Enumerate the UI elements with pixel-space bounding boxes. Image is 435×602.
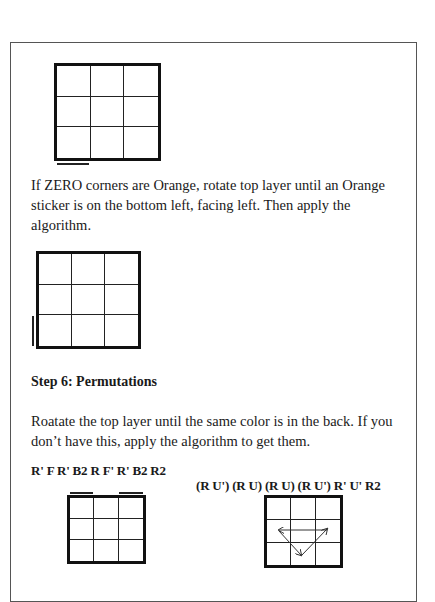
- cube-cell: [119, 519, 143, 540]
- cube-cell: [39, 285, 72, 316]
- cube-cell: [105, 315, 138, 346]
- cube-cell: [124, 97, 158, 128]
- cube-cell: [39, 315, 72, 346]
- sticker-marker-left: [32, 316, 34, 346]
- cube-cell: [105, 285, 138, 316]
- cube-cell: [119, 540, 143, 561]
- algorithm-1-label: R' F R' B2 R F' R' B2 R2: [31, 463, 166, 479]
- cube-cell: [72, 315, 105, 346]
- cube-cell: [57, 97, 91, 128]
- cube-cell: [94, 519, 118, 540]
- cube-cell: [124, 127, 158, 158]
- zero-corners-instructions: If ZERO corners are Orange, rotate top l…: [31, 175, 401, 235]
- cube-cell: [57, 127, 91, 158]
- algorithm-2-label: (R U') (R U) (R U) (R U') R' U' R2: [196, 478, 381, 494]
- cube-cell: [119, 498, 143, 519]
- cube-cell: [91, 127, 125, 158]
- cube-cell: [70, 498, 94, 519]
- cube-cell: [72, 254, 105, 285]
- edge-cycle-arrows-icon: [264, 495, 343, 568]
- cube-cell: [39, 254, 72, 285]
- cube-cell: [72, 285, 105, 316]
- cube-top-face-diagram-3: [67, 495, 146, 564]
- sticker-marker-top-right: [119, 492, 143, 494]
- cube-top-face-diagram-2: [36, 251, 141, 349]
- step6-description: Roatate the top layer until the same col…: [31, 411, 401, 451]
- cube-cell: [91, 97, 125, 128]
- cube-cell: [105, 254, 138, 285]
- sticker-marker-bottom: [57, 163, 89, 165]
- cube-cell: [70, 540, 94, 561]
- step6-heading: Step 6: Permutations: [31, 374, 157, 390]
- cube-top-face-diagram-1: [54, 63, 161, 161]
- sticker-marker-top-left: [70, 492, 93, 494]
- cube-cell: [94, 540, 118, 561]
- cube-cell: [57, 66, 91, 97]
- cube-cell: [70, 519, 94, 540]
- cube-cell: [94, 498, 118, 519]
- cube-cell: [124, 66, 158, 97]
- cube-cell: [91, 66, 125, 97]
